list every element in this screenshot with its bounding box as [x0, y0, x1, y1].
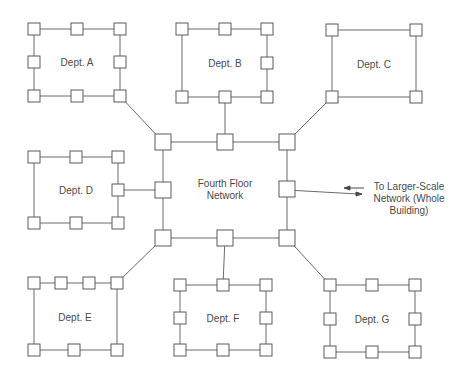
label-fourth-floor-network: Fourth Floor Network [185, 178, 265, 202]
bidirectional-arrow-icon [344, 186, 364, 196]
label-dept-g: Dept. G [342, 314, 402, 326]
center-label-line2: Network [185, 190, 265, 202]
label-dept-a: Dept. A [47, 57, 107, 69]
label-dept-e: Dept. E [45, 312, 105, 324]
center-label-line1: Fourth Floor [185, 178, 265, 190]
label-dept-d: Dept. D [46, 185, 106, 197]
external-label-line2: Network (Whole [366, 193, 452, 205]
external-label-line3: Building) [366, 205, 452, 217]
label-dept-f: Dept. F [193, 313, 253, 325]
label-dept-b: Dept. B [195, 58, 255, 70]
label-dept-c: Dept. C [344, 59, 404, 71]
network-diagram: Dept. A Dept. B Dept. C Dept. D Dept. E … [0, 0, 461, 377]
label-larger-network: To Larger-Scale Network (Whole Building) [366, 181, 452, 217]
external-label-line1: To Larger-Scale [366, 181, 452, 193]
link-external [287, 190, 358, 194]
